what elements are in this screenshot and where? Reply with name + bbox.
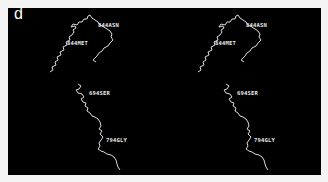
residue-label: 694SER (237, 90, 259, 96)
right-view: 844ASN 844MET 694SER 794GLY (198, 15, 276, 170)
lower-chain-trace (76, 84, 120, 170)
lower-chain-trace (224, 84, 268, 170)
residue-label: 694SER (89, 90, 111, 96)
residue-label: 844ASN (246, 22, 267, 28)
residue-label: 794GLY (106, 137, 128, 143)
residue-label: 794GLY (254, 137, 276, 143)
residue-label: 844MET (67, 40, 89, 46)
residue-label: 844MET (215, 40, 237, 46)
left-view: 844ASN 844MET 694SER 794GLY (50, 15, 128, 170)
residue-label: 844ASN (98, 22, 119, 28)
stereo-trace-figure: 844ASN 844MET 694SER 794GLY 844ASN 844ME… (0, 0, 328, 182)
